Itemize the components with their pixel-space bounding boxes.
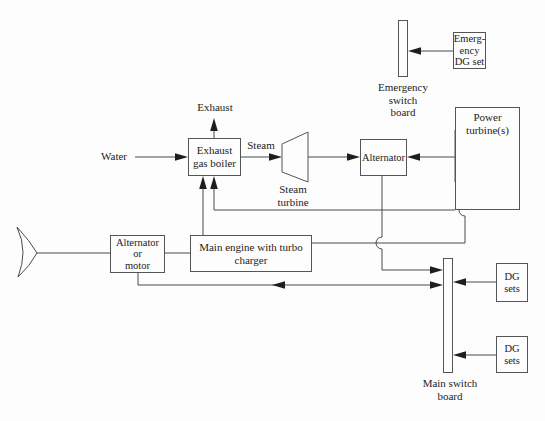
alternator-to-switchboard-line	[376, 176, 430, 270]
power-turbine-text: Power	[473, 111, 501, 124]
exhaust-gas-boiler-text: Exhaust	[197, 144, 232, 157]
ship-power-plant-diagram: Emerg- ency DG set Power turbine(s) Exha…	[0, 0, 545, 421]
dg-sets-text: sets	[504, 283, 520, 295]
emergency-dg-set-text: DG set	[455, 56, 484, 68]
alternator-text: Alternator	[362, 152, 405, 164]
arrow-exhaust-up-icon	[210, 118, 218, 131]
main-engine-text: charger	[235, 254, 268, 267]
arrow-dg-bottom-icon	[453, 351, 466, 359]
emergency-dg-set-box: Emerg- ency DG set	[453, 32, 486, 69]
steam-turbine-label: Steam turbine	[263, 183, 323, 208]
alternator-or-motor-text: or	[133, 248, 142, 260]
dg-sets-bottom-box: DG sets	[496, 336, 528, 373]
exhaust-label: Exhaust	[190, 101, 240, 114]
power-turbine-box: Power turbine(s)	[455, 107, 520, 210]
main-engine-box: Main engine with turbo charger	[190, 235, 312, 272]
arrow-steam-icon	[269, 153, 282, 161]
arrow-into-alternator-right-icon	[407, 153, 420, 161]
steam-turbine-symbol	[282, 132, 308, 182]
main-engine-text: Main engine with turbo	[199, 241, 303, 254]
main-switchboard-bar	[443, 258, 453, 373]
emergency-switchboard-label: Emergency switch board	[368, 81, 438, 119]
arrow-into-alternator-left-icon	[347, 153, 360, 161]
emergency-dg-set-text: Emerg-	[454, 33, 485, 45]
exhaust-gas-boiler-box: Exhaust gas boiler	[188, 138, 241, 176]
emergency-dg-set-text: ency	[460, 45, 480, 57]
arrow-alternator-to-board-icon	[430, 266, 443, 274]
arrow-power-line-right-icon	[430, 281, 443, 289]
alternator-box: Alternator	[360, 139, 407, 176]
power-turbine-text: turbine(s)	[466, 124, 509, 137]
engine-to-power-turbine-line	[312, 199, 465, 243]
dg-sets-text: DG	[504, 343, 519, 355]
propeller-icon	[17, 227, 37, 277]
dg-sets-text: sets	[504, 355, 520, 367]
arrow-into-boiler-left-icon	[199, 176, 207, 189]
arrow-dg-top-icon	[453, 278, 466, 286]
main-switchboard-label: Main switch board	[410, 377, 490, 402]
arrow-power-line-left-icon	[272, 281, 285, 289]
dg-sets-text: DG	[504, 271, 519, 283]
emergency-switchboard-bar	[398, 20, 408, 77]
arrow-into-emergency-board-icon	[408, 47, 421, 55]
exhaust-gas-boiler-text: gas boiler	[193, 157, 236, 170]
alternator-or-motor-box: Alternator or motor	[110, 235, 165, 273]
alternator-or-motor-text: Alternator	[116, 237, 159, 249]
dg-sets-top-box: DG sets	[496, 263, 528, 302]
steam-label: Steam	[240, 139, 282, 152]
arrow-water-icon	[175, 153, 188, 161]
alternator-or-motor-text: motor	[125, 260, 150, 272]
duct-to-boiler-line	[214, 189, 455, 210]
arrow-into-boiler-right-icon	[210, 176, 218, 189]
water-label: Water	[95, 150, 133, 163]
